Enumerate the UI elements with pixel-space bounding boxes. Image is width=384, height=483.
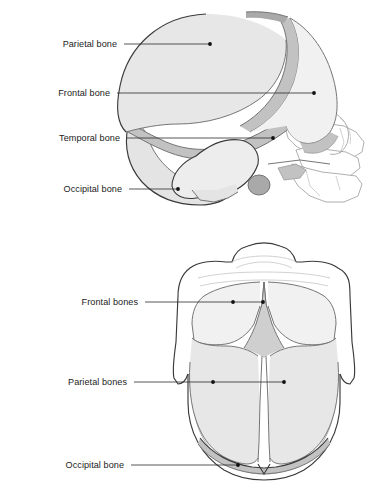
leader-dot-frontal-right [261,300,265,304]
superior-skull-drawing [173,243,355,480]
label-text-occipital-bone-superior: Occipital bone [66,460,124,470]
vertex-ridge [246,12,288,23]
label-text-parietal-bones: Parietal bones [68,377,127,387]
leader-dot-frontal-left [231,300,235,304]
lateral-skull-panel: Parietal bone Frontal bone Temporal bone… [0,0,384,232]
leader-dot-temporal [271,136,275,140]
leader-dot-occipital-superior [236,463,240,467]
label-text-temporal-bone: Temporal bone [59,133,120,143]
label-text-occipital-bone: Occipital bone [64,184,122,194]
leader-dot-parietal [208,42,212,46]
leader-dot-frontal [312,91,316,95]
label-text-frontal-bones: Frontal bones [82,297,139,307]
skull-anatomy-figure: Parietal bone Frontal bone Temporal bone… [0,0,384,483]
leader-dot-occipital [176,187,180,191]
lateral-skull-drawing [118,12,364,205]
superior-skull-panel: Frontal bones Parietal bones Occipital b… [0,232,384,483]
leader-dot-parietal-left [211,380,215,384]
leader-dot-parietal-right [282,380,286,384]
label-text-frontal-bone: Frontal bone [58,88,110,98]
label-text-parietal-bone: Parietal bone [63,39,117,49]
